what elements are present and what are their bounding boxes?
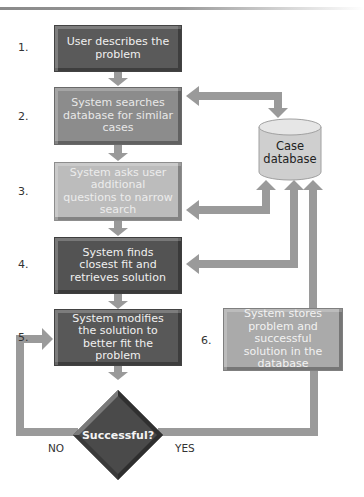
step-5-text: System modifies the solution to better f…	[63, 313, 173, 363]
step-5-box: System modifies the solution to better f…	[54, 309, 182, 366]
step-6-text: System stores problem and successful sol…	[232, 308, 334, 371]
arrow-down-2-3	[108, 145, 128, 161]
step-1-box: User describes the problem	[54, 25, 182, 72]
step-number-5: 5.	[18, 331, 29, 344]
case-database-label: Case database	[259, 140, 321, 165]
step-1-text: User describes the problem	[63, 36, 173, 61]
decision-label: Successful?	[80, 429, 156, 442]
step-2-text: System searches database for similar cas…	[63, 97, 173, 135]
step-3-text: System asks user additional questions to…	[63, 167, 173, 217]
step-number-2: 2.	[18, 110, 29, 123]
step-4-text: System finds closest fit and retrieves s…	[63, 247, 173, 285]
step-4-box: System finds closest fit and retrieves s…	[54, 237, 182, 294]
arrow-down-4-5	[108, 294, 128, 309]
arrow-down-3-4	[108, 221, 128, 236]
step-number-6: 6.	[201, 334, 212, 347]
arrow-box6-database	[303, 180, 323, 308]
step-6-box: System stores problem and successful sol…	[223, 308, 343, 371]
step-number-1: 1.	[18, 41, 29, 54]
arrow-yes-path	[158, 371, 318, 436]
yes-label: YES	[175, 442, 195, 454]
arrow-database-box3	[186, 180, 276, 220]
step-2-box: System searches database for similar cas…	[54, 87, 182, 145]
no-label: NO	[48, 442, 64, 454]
step-3-box: System asks user additional questions to…	[54, 162, 182, 221]
step-number-3: 3.	[18, 185, 29, 198]
arrow-database-box4	[186, 180, 304, 274]
step-number-4: 4.	[18, 258, 29, 271]
arrow-down-5-decision	[108, 366, 128, 380]
arrow-box2-database	[186, 86, 288, 118]
arrow-down-1-2	[108, 72, 128, 86]
